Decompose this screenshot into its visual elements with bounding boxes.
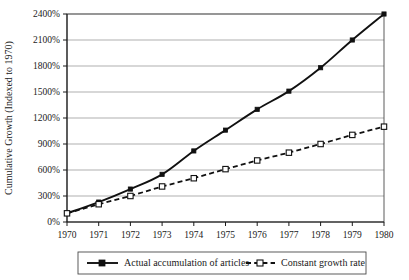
x-tick-label: 1980 [375,230,394,240]
y-tick-label: 600% [38,165,60,175]
data-point-marker [286,150,291,155]
data-point-marker [223,128,227,132]
y-tick-label: 1800% [33,61,60,71]
x-tick-label: 1974 [184,230,203,240]
x-tick-label: 1973 [153,230,172,240]
y-tick-label: 2100% [33,35,60,45]
data-point-marker [350,132,355,137]
data-point-marker [96,202,101,207]
data-point-marker [318,141,323,146]
data-point-marker [191,176,196,181]
data-point-marker [223,166,228,171]
x-tick-label: 1970 [58,230,77,240]
line-chart: 0%300%600%900%1200%1500%1800%2100%2400% … [0,0,409,280]
y-tick-label: 2400% [33,9,60,19]
data-point-marker [381,124,386,129]
y-axis-title: Cumulative Growth (Indexed to 1970) [3,41,15,195]
data-point-marker [128,193,133,198]
legend-marker-actual-accumulation [99,260,105,266]
x-tick-label: 1976 [248,230,267,240]
data-point-marker [255,107,259,111]
data-point-marker [64,211,69,216]
x-axis-tick-labels: 1970197119721973197419751976197719781979… [58,230,394,240]
data-point-marker [128,187,132,191]
y-axis-tick-labels: 0%300%600%900%1200%1500%1800%2100%2400% [33,9,60,227]
data-point-marker [319,66,323,70]
y-tick-label: 0% [47,217,60,227]
x-tick-label: 1977 [279,230,298,240]
data-point-marker [382,12,386,16]
legend-label-constant-growth: Constant growth rate [281,257,365,268]
y-tick-label: 1500% [33,87,60,97]
data-point-marker [255,158,260,163]
data-point-marker [192,149,196,153]
x-tick-label: 1979 [343,230,362,240]
y-tick-label: 900% [38,139,60,149]
x-tick-label: 1978 [311,230,330,240]
y-tick-label: 300% [38,191,60,201]
data-point-marker [159,184,164,189]
chart-container: 0%300%600%900%1200%1500%1800%2100%2400% … [0,0,409,280]
data-point-marker [287,89,291,93]
x-tick-label: 1975 [216,230,235,240]
data-point-marker [350,38,354,42]
y-tick-label: 1200% [33,113,60,123]
legend-marker-constant-growth [257,260,263,266]
legend-label-actual-accumulation: Actual accumulation of articles [124,257,249,268]
x-tick-label: 1972 [121,230,140,240]
x-tick-label: 1971 [89,230,108,240]
data-point-marker [160,172,164,176]
